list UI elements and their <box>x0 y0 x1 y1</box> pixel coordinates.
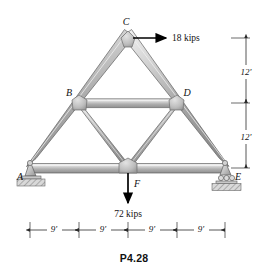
truss-diagram-canvas: A B C D E F 18 kips 72 kips 12' <box>0 0 268 275</box>
joint-label-F: F <box>133 178 141 189</box>
dim-span-1: 9' <box>30 223 79 235</box>
dim-label-span-1: 9' <box>51 224 59 234</box>
joint-label-B: B <box>66 87 72 98</box>
truss-figure: A B C D E F 18 kips 72 kips 12' <box>0 0 268 275</box>
vertical-dimensions: 12' 12' <box>231 38 253 168</box>
truss-members <box>27 30 230 174</box>
dim-span-2: 9' <box>79 223 128 235</box>
dim-span-3: 9' <box>128 223 177 235</box>
joint-label-E: E <box>234 171 241 182</box>
member-D-F <box>124 101 182 170</box>
roller-wheel <box>229 175 234 180</box>
joint-label-D: D <box>182 87 191 98</box>
dim-label-upper: 12' <box>241 67 253 77</box>
load-label-72kips: 72 kips <box>114 209 142 219</box>
dim-label-lower: 12' <box>241 132 253 142</box>
member-B-F <box>75 101 133 170</box>
roller-wheel <box>218 175 223 180</box>
joint-label-A: A <box>16 171 24 182</box>
roller-wheel <box>224 175 229 180</box>
dim-upper-12ft: 12' <box>240 38 253 103</box>
dim-label-span-3: 9' <box>149 224 157 234</box>
joint-label-C: C <box>123 16 130 27</box>
load-label-18kips: 18 kips <box>172 33 200 43</box>
dim-label-span-4: 9' <box>198 224 206 234</box>
dim-lower-12ft: 12' <box>240 103 253 168</box>
dim-label-span-2: 9' <box>100 224 108 234</box>
member-B-D <box>77 99 179 108</box>
dim-span-4: 9' <box>177 223 225 235</box>
figure-caption: P4.28 <box>0 252 268 264</box>
load-arrow-18kips: 18 kips <box>133 33 200 43</box>
horizontal-dimensions: 9' 9' 9' 9' <box>30 222 225 238</box>
